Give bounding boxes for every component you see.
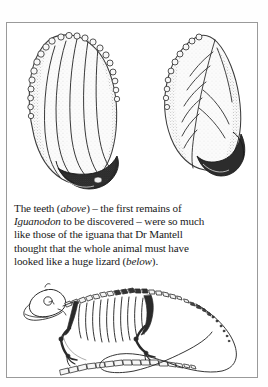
figure-caption: The teeth (above) – the first remains of… (14, 202, 252, 268)
book-page: The teeth (above) – the first remains of… (0, 0, 268, 387)
caption-line-4: thought that the whole animal must have (14, 242, 252, 255)
caption-line-1: The teeth (above) – the first remains of (14, 202, 252, 215)
skeleton-skull (24, 284, 66, 321)
iguanodon-teeth-illustration (7, 23, 257, 198)
caption-line-3: like those of the iguana that Dr Mantell (14, 228, 252, 241)
caption-line-2: Iguanodon to be discovered – were so muc… (14, 215, 252, 228)
skeleton-tail-vertebrae (190, 302, 230, 342)
skeleton-ventral-segments (60, 360, 196, 375)
skeleton-vertebral-column (65, 288, 189, 307)
skeleton-ribcage (79, 297, 144, 342)
iguana-skeleton-illustration (8, 276, 256, 376)
tooth-right (155, 28, 255, 178)
caption-line-5: looked like a huge lizard (below). (14, 255, 252, 268)
tooth-left (22, 28, 132, 193)
